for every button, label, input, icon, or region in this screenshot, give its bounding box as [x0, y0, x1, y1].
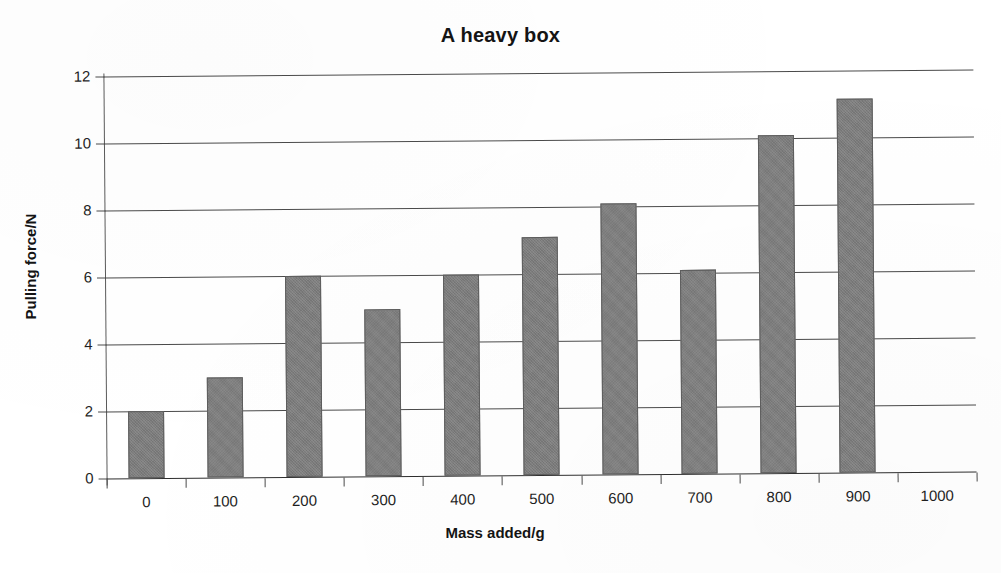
- x-tick-7: [660, 475, 661, 484]
- y-tick-2: [98, 411, 107, 412]
- x-tick-11: [977, 473, 978, 482]
- y-tick-label-wrap-6: 6: [52, 278, 92, 279]
- y-axis-ticks-group: 024681012: [0, 0, 999, 4]
- y-tick-label-wrap-0: 0: [54, 479, 94, 480]
- bar-chart-figure: A heavy box Pulling force/N Mass added/g…: [0, 0, 1001, 573]
- y-tick-label-4: 4: [58, 336, 92, 353]
- x-tick-3: [344, 478, 345, 487]
- y-tick-6: [97, 277, 106, 278]
- y-tick-label-wrap-10: 10: [51, 144, 91, 145]
- x-tick-1: [186, 479, 187, 488]
- y-tick-10: [96, 143, 105, 144]
- x-axis-label-200: 200: [264, 492, 344, 510]
- bar-600: [601, 203, 639, 475]
- bar-700: [680, 269, 718, 474]
- bar-400: [443, 274, 481, 475]
- y-tick-label-10: 10: [57, 135, 91, 152]
- bar-100: [206, 377, 243, 478]
- x-axis-label-600: 600: [581, 489, 661, 507]
- y-tick-label-2: 2: [59, 403, 93, 420]
- y-tick-12: [95, 76, 104, 77]
- x-tick-6: [581, 476, 582, 485]
- x-axis-label-500: 500: [502, 490, 582, 508]
- x-tick-0: [107, 479, 108, 488]
- gridlines-group: [103, 70, 973, 77]
- x-axis-label-300: 300: [344, 491, 424, 509]
- y-tick-label-wrap-12: 12: [50, 77, 90, 78]
- x-axis-label-700: 700: [660, 488, 740, 506]
- bar-500: [522, 237, 560, 475]
- x-axis-label-100: 100: [185, 492, 265, 510]
- y-tick-label-8: 8: [57, 202, 91, 219]
- x-tick-4: [423, 477, 424, 486]
- x-tick-5: [502, 476, 503, 485]
- gridline-12: [103, 70, 973, 78]
- bar-200: [285, 276, 323, 477]
- x-axis-label-1000: 1000: [897, 487, 977, 505]
- y-tick-label-6: 6: [58, 269, 92, 286]
- bar-300: [364, 309, 401, 477]
- plot-wrapper: 024681012 010020030040050060070080090010…: [0, 0, 1001, 573]
- x-axis-label-0: 0: [106, 493, 186, 511]
- x-tick-9: [818, 474, 819, 483]
- bar-0: [128, 411, 165, 478]
- bar-900: [837, 99, 876, 473]
- x-axis-label-900: 900: [818, 487, 898, 505]
- y-tick-label-12: 12: [56, 68, 90, 85]
- y-tick-label-wrap-2: 2: [53, 412, 93, 413]
- x-tick-2: [265, 478, 266, 487]
- x-tick-8: [739, 474, 740, 483]
- bar-800: [758, 135, 797, 474]
- y-tick-label-wrap-4: 4: [53, 345, 93, 346]
- y-tick-4: [98, 344, 107, 345]
- x-axis-ticks-group: [0, 0, 999, 4]
- y-tick-label-wrap-8: 8: [51, 211, 91, 212]
- x-axis-label-800: 800: [739, 488, 819, 506]
- x-axis-labels-group: 01002003004005006007008009001000: [0, 0, 999, 4]
- x-axis-label-400: 400: [423, 490, 503, 508]
- y-tick-label-0: 0: [60, 470, 94, 487]
- x-tick-10: [897, 473, 898, 482]
- plot-area: [103, 70, 976, 479]
- y-tick-8: [96, 210, 105, 211]
